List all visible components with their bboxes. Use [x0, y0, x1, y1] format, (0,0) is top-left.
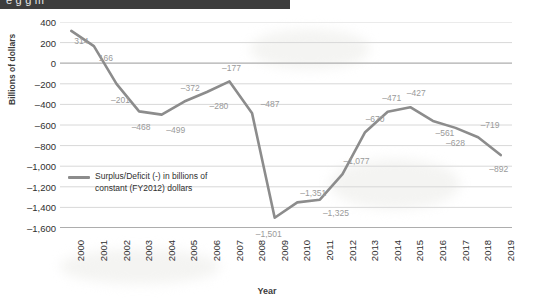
- x-axis-tick-label: 2004: [166, 240, 177, 261]
- y-axis-tick-label: –1,200: [4, 181, 56, 192]
- legend-label-line2: constant (FY2012) dollars: [95, 183, 192, 193]
- x-axis-tick-label: 2016: [437, 240, 448, 261]
- y-axis-tick-label: –200: [4, 78, 56, 89]
- y-axis-tick-label: –600: [4, 120, 56, 131]
- legend-label: Surplus/Deficit (-) in billions of const…: [95, 171, 227, 194]
- y-axis-tick-label: –400: [4, 99, 56, 110]
- x-axis-tick-label: 2006: [211, 240, 222, 261]
- data-point-label: –1,325: [323, 208, 349, 218]
- x-axis-tick-label: 2012: [347, 240, 358, 261]
- data-point-label: –719: [481, 120, 500, 130]
- x-axis-tick-labels: 2000200120022003200420052006200720082009…: [60, 240, 512, 280]
- y-axis-tick-label: 200: [4, 37, 56, 48]
- chart-figure: Billions of dollars 4002000–200–400–600–…: [0, 9, 534, 303]
- window-header-strip: e g g m: [0, 0, 290, 9]
- data-point-label: 314: [74, 36, 88, 46]
- x-axis-tick-label: 2001: [98, 240, 109, 261]
- x-axis-tick-label: 2008: [256, 240, 267, 261]
- data-point-label: –177: [222, 63, 241, 73]
- y-axis-tick-labels: 4002000–200–400–600–800–1,000–1,200–1,40…: [0, 22, 56, 228]
- data-point-label: –1,351: [300, 188, 326, 198]
- data-point-label: –1,077: [344, 156, 370, 166]
- data-point-label: –561: [435, 128, 454, 138]
- data-point-label: –628: [446, 138, 465, 148]
- line-chart-svg: [60, 22, 512, 228]
- x-axis-tick-label: 2000: [75, 240, 86, 261]
- x-axis-tick-label: 2015: [414, 240, 425, 261]
- y-axis-tick-label: –800: [4, 140, 56, 151]
- x-axis-tick-label: 2011: [324, 240, 335, 260]
- x-axis-tick-label: 2007: [234, 240, 245, 261]
- y-axis-tick-label: –1,400: [4, 202, 56, 213]
- x-axis-tick-label: 2010: [301, 240, 312, 261]
- y-axis-tick-label: –1,600: [4, 223, 56, 234]
- chart-legend: Surplus/Deficit (-) in billions of const…: [68, 171, 227, 194]
- data-point-label: –499: [166, 125, 185, 135]
- data-point-label: –427: [407, 88, 426, 98]
- y-axis-tick-label: 0: [4, 58, 56, 69]
- data-point-label: –468: [132, 122, 151, 132]
- x-axis-tick-label: 2002: [121, 240, 132, 261]
- legend-line-swatch: [68, 176, 90, 179]
- data-point-label: –471: [382, 93, 401, 103]
- x-axis-tick-label: 2009: [279, 240, 290, 261]
- x-axis-tick-label: 2013: [369, 240, 380, 261]
- data-point-label: 166: [99, 53, 113, 63]
- data-point-label: –201: [111, 95, 130, 105]
- data-point-label: –372: [181, 83, 200, 93]
- x-axis-tick-label: 2005: [188, 240, 199, 261]
- y-axis-tick-label: –1,000: [4, 161, 56, 172]
- window-header-filler: [290, 0, 534, 9]
- x-axis-tick-label: 2014: [392, 240, 403, 261]
- y-axis-tick-label: 400: [4, 17, 56, 28]
- data-point-label: –487: [261, 99, 280, 109]
- x-axis-tick-label: 2017: [460, 240, 471, 261]
- data-point-label: –892: [489, 164, 508, 174]
- x-axis-tick-label: 2018: [482, 240, 493, 261]
- plot-area: [60, 22, 512, 228]
- legend-label-line1: Surplus/Deficit (-) in billions of: [95, 171, 207, 181]
- data-point-label: –280: [209, 101, 228, 111]
- x-axis-tick-label: 2019: [505, 240, 516, 261]
- data-point-label: –1,501: [256, 229, 282, 239]
- data-point-label: –670: [366, 114, 385, 124]
- x-axis-tick-label: 2003: [143, 240, 154, 261]
- x-axis-title: Year: [0, 286, 534, 296]
